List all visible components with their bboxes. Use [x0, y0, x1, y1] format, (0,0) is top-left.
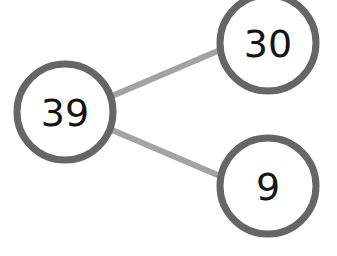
number-bond-diagram: 39 30 9: [0, 0, 337, 256]
part-1-value: 30: [244, 22, 292, 66]
whole-value: 39: [41, 91, 89, 135]
connector-whole-to-part-1: [112, 50, 220, 96]
connector-whole-to-part-2: [112, 130, 220, 176]
part-2-value: 9: [256, 165, 280, 209]
part-circle-2: 9: [220, 138, 316, 234]
part-circle-1: 30: [220, 0, 316, 91]
whole-circle: 39: [17, 64, 113, 160]
